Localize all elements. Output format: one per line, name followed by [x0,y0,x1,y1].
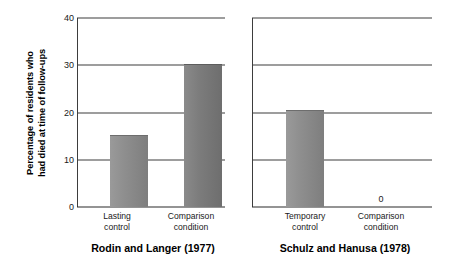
x-tick-comparison-condition-left: Comparison condition [168,211,214,232]
plot-area-left [77,18,225,207]
bar-chart-figure: Percentage of residents who had died at … [0,0,451,268]
caption-rodin-langer: Rodin and Langer (1977) [91,242,215,254]
value-label-zero: 0 [378,194,383,204]
x-tick-comparison-condition-right: Comparison condition [358,211,404,232]
gridline-0-right [252,207,432,208]
x-tick-temporary-control: Temporary control [285,211,326,232]
y-tick-10: 10 [54,155,74,165]
plot-area-right: 0 [252,18,432,207]
gridline-40-left [77,18,225,19]
caption-schulz-hanusa: Schulz and Hanusa (1978) [280,242,411,254]
gridline-10-right [252,159,432,160]
gridline-40-right [252,18,432,19]
y-tick-30: 30 [54,60,74,70]
y-axis-title-line-1: Percentage of residents who [25,48,37,176]
bar-lasting-control [110,135,148,207]
y-tick-40: 40 [54,13,74,23]
gridline-30-right [252,65,432,66]
y-tick-0: 0 [54,202,74,212]
x-tick-lasting-control: Lasting control [103,211,131,232]
y-axis-title-line-2: had died at time of follow-ups [37,48,49,176]
bar-temporary-control [286,110,324,207]
bar-comparison-condition-left [184,64,222,207]
y-tick-20: 20 [54,108,74,118]
y-axis-tick-labels: 40 30 20 10 0 [52,0,74,268]
panel-rodin-langer [77,18,225,207]
gridline-20-right [252,112,432,113]
panel-schulz-hanusa: 0 [252,18,432,207]
